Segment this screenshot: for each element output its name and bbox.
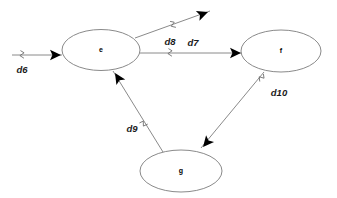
edge-label-d9: d9: [126, 123, 138, 134]
node-label-e: e: [99, 46, 103, 53]
arrowhead-icon-d10: [203, 135, 214, 147]
edges-layer: [12, 11, 264, 152]
edge-d9: [113, 71, 163, 152]
edge-label-d6: d6: [16, 64, 28, 75]
edge-line-d9: [113, 71, 163, 152]
edge-d8: [135, 11, 210, 38]
edge-tick-icon-d6: [20, 51, 24, 58]
edge-tick-icon-d8: [170, 21, 175, 27]
graph-svg: d6d8d7d10d9efg: [0, 0, 337, 198]
diagram-canvas: d6d8d7d10d9efg: [0, 0, 337, 198]
edge-label-d8: d8: [164, 36, 176, 47]
edge-line-d10: [201, 72, 264, 148]
edge-d7: [140, 48, 242, 58]
edge-label-d7: d7: [187, 37, 199, 48]
edge-d6: [12, 50, 62, 60]
edge-label-d10: d10: [271, 87, 288, 98]
edge-tick-icon-d7: [168, 49, 172, 56]
node-label-g: g: [179, 167, 183, 175]
edge-d10: [201, 72, 264, 148]
